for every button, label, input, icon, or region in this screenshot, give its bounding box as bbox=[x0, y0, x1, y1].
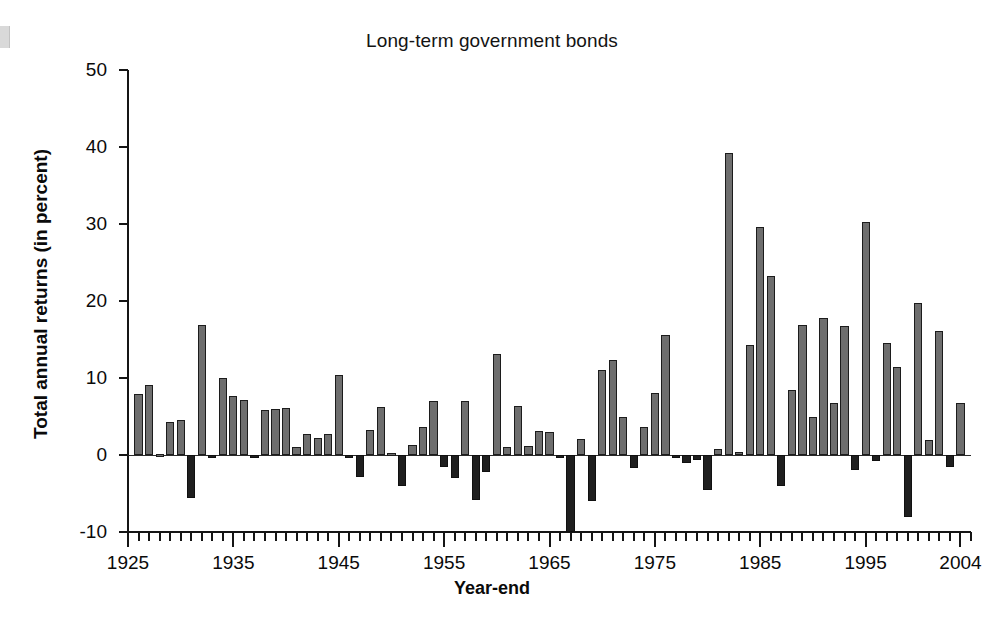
bar bbox=[914, 303, 922, 455]
x-axis-minor-tick bbox=[264, 532, 266, 541]
bar bbox=[893, 367, 901, 455]
bar bbox=[630, 455, 638, 468]
x-axis-minor-tick bbox=[738, 532, 740, 541]
bar bbox=[219, 378, 227, 455]
x-axis-minor-tick bbox=[412, 532, 414, 541]
x-axis-minor-tick bbox=[675, 532, 677, 541]
bar bbox=[250, 455, 258, 458]
x-axis-minor-tick bbox=[707, 532, 709, 541]
x-axis-minor-tick bbox=[369, 532, 371, 541]
bar bbox=[661, 335, 669, 455]
x-axis-tick-label: 1945 bbox=[318, 552, 360, 574]
x-axis-minor-tick bbox=[422, 532, 424, 541]
x-axis-minor-tick bbox=[622, 532, 624, 541]
bar bbox=[387, 453, 395, 456]
bar bbox=[482, 455, 490, 472]
bar bbox=[198, 325, 206, 455]
x-axis-minor-tick bbox=[633, 532, 635, 541]
bar bbox=[756, 227, 764, 455]
x-axis-minor-tick bbox=[169, 532, 171, 541]
x-axis-major-tick bbox=[443, 532, 445, 547]
bar bbox=[240, 400, 248, 455]
y-axis-tick-label: 0 bbox=[96, 445, 107, 464]
x-axis-minor-tick bbox=[696, 532, 698, 541]
bar bbox=[261, 410, 269, 455]
bar bbox=[682, 455, 690, 463]
bar bbox=[461, 401, 469, 455]
x-axis-tick-label: 2004 bbox=[939, 552, 981, 574]
bar bbox=[693, 455, 701, 460]
bar bbox=[946, 455, 954, 467]
bar bbox=[746, 345, 754, 455]
bar bbox=[777, 455, 785, 486]
bar bbox=[145, 385, 153, 455]
x-axis-minor-tick bbox=[496, 532, 498, 541]
y-axis-tick-label: 20 bbox=[86, 291, 107, 310]
bar bbox=[619, 417, 627, 455]
x-axis-minor-tick bbox=[612, 532, 614, 541]
bar bbox=[956, 403, 964, 455]
x-axis-major-tick bbox=[654, 532, 656, 547]
x-axis-major-tick bbox=[127, 532, 129, 547]
bar bbox=[524, 446, 532, 455]
bar bbox=[904, 455, 912, 517]
x-axis-minor-tick bbox=[854, 532, 856, 541]
y-axis-tick: 10 bbox=[119, 377, 128, 379]
x-axis-minor-tick bbox=[296, 532, 298, 541]
bar bbox=[356, 455, 364, 477]
bar bbox=[788, 390, 796, 455]
x-axis-minor-tick bbox=[517, 532, 519, 541]
x-axis-minor-tick bbox=[559, 532, 561, 541]
y-axis-tick-label: 30 bbox=[86, 214, 107, 233]
bar bbox=[703, 455, 711, 490]
x-axis-minor-tick bbox=[454, 532, 456, 541]
x-axis-minor-tick bbox=[907, 532, 909, 541]
bar bbox=[271, 409, 279, 455]
y-axis-label: Total annual returns (in percent) bbox=[30, 104, 52, 484]
x-axis-tick-label: 1935 bbox=[212, 552, 254, 574]
x-axis-minor-tick bbox=[601, 532, 603, 541]
bar bbox=[166, 422, 174, 455]
bar bbox=[429, 401, 437, 455]
x-axis-major-tick bbox=[549, 532, 551, 547]
x-axis-minor-tick bbox=[791, 532, 793, 541]
x-axis-minor-tick bbox=[685, 532, 687, 541]
x-axis-minor-tick bbox=[359, 532, 361, 541]
bar bbox=[872, 455, 880, 461]
x-axis-minor-tick bbox=[844, 532, 846, 541]
bar bbox=[292, 447, 300, 455]
y-axis-tick-label: 40 bbox=[86, 137, 107, 156]
x-axis-minor-tick bbox=[464, 532, 466, 541]
x-axis-tick-label: 1975 bbox=[634, 552, 676, 574]
x-axis-major-tick bbox=[865, 532, 867, 547]
bar bbox=[535, 431, 543, 455]
bar bbox=[398, 455, 406, 486]
x-axis-minor-tick bbox=[527, 532, 529, 541]
bar bbox=[440, 455, 448, 467]
bar bbox=[925, 440, 933, 455]
bar bbox=[935, 331, 943, 455]
bar bbox=[840, 326, 848, 455]
x-axis-minor-tick bbox=[591, 532, 593, 541]
bar bbox=[408, 445, 416, 455]
x-axis-minor-tick bbox=[401, 532, 403, 541]
x-axis-minor-tick bbox=[970, 532, 972, 541]
bar bbox=[514, 406, 522, 455]
bar bbox=[672, 455, 680, 458]
y-axis-tick: 20 bbox=[119, 300, 128, 302]
x-axis-major-tick bbox=[232, 532, 234, 547]
bar bbox=[345, 455, 353, 458]
bar bbox=[545, 432, 553, 455]
bar bbox=[493, 354, 501, 455]
x-axis-minor-tick bbox=[538, 532, 540, 541]
x-axis-minor-tick bbox=[938, 532, 940, 541]
bar bbox=[156, 454, 164, 457]
bar bbox=[208, 455, 216, 458]
bar bbox=[598, 370, 606, 455]
x-axis-minor-tick bbox=[253, 532, 255, 541]
x-axis-major-tick bbox=[759, 532, 761, 547]
x-axis-minor-tick bbox=[275, 532, 277, 541]
x-axis-major-tick bbox=[959, 532, 961, 547]
plot-area: 50403020100-10 1925193519451955196519751… bbox=[128, 70, 971, 532]
chart-title: Long-term government bonds bbox=[0, 30, 984, 52]
